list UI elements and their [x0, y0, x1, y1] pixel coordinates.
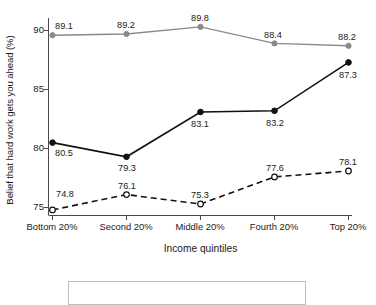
series-gray-point: [346, 43, 351, 48]
data-label-black-2: 83.1: [191, 119, 209, 129]
series-dashed-point: [50, 207, 56, 213]
x-tick-middle-20: Middle 20%: [176, 221, 225, 233]
x-axis-title: Income quintiles: [49, 243, 352, 254]
series-dashed-point: [198, 201, 204, 207]
x-tick-bottom-20: Bottom 20%: [26, 221, 77, 233]
data-label-black-0: 80.5: [55, 148, 73, 158]
series-black-point: [50, 140, 56, 146]
data-label-dashed-4: 78.1: [339, 157, 357, 167]
data-label-gray-2: 89.8: [191, 13, 209, 23]
series-black-point: [124, 154, 130, 160]
series-black-point: [346, 60, 352, 66]
data-label-dashed-1: 76.1: [118, 181, 136, 191]
series-dashed-point: [124, 192, 130, 198]
data-label-dashed-2: 75.3: [191, 190, 209, 200]
data-label-dashed-0: 74.8: [56, 189, 74, 199]
data-label-gray-1: 89.2: [117, 20, 135, 30]
series-dashed-point: [272, 174, 278, 180]
series-gray-point: [124, 31, 129, 36]
series-gray-point: [50, 33, 55, 38]
x-axis-ticks: [53, 216, 349, 221]
y-axis-ticks: [44, 31, 49, 208]
data-label-gray-4: 88.2: [338, 32, 356, 42]
data-label-black-3: 83.2: [266, 118, 284, 128]
series-black-point: [198, 109, 204, 115]
series-black-solid: [50, 60, 352, 160]
data-label-black-4: 87.3: [339, 70, 357, 80]
legend-box: [68, 281, 306, 305]
data-label-gray-0: 89.1: [55, 21, 73, 31]
x-tick-top-20: Top 20%: [330, 221, 366, 233]
series-gray-point: [272, 41, 277, 46]
series-gray-solid: [50, 24, 351, 48]
series-dashed-point: [346, 168, 352, 174]
series-black-point: [272, 108, 278, 114]
data-label-black-1: 79.3: [118, 163, 136, 173]
x-tick-second-20: Second 20%: [99, 221, 152, 233]
data-label-gray-3: 88.4: [264, 30, 282, 40]
series-gray-point: [198, 24, 203, 29]
x-tick-fourth-20: Fourth 20%: [250, 221, 298, 233]
data-label-dashed-3: 77.6: [266, 163, 284, 173]
